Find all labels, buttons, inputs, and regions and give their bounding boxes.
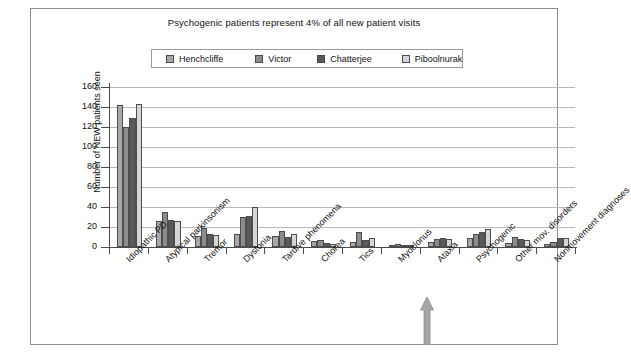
y-tick-label-160: 160	[55, 81, 97, 91]
legend-swatch-victor	[255, 55, 263, 63]
y-tick-20	[101, 227, 109, 228]
legend-item-piboolnurak[interactable]: Piboolnurak	[402, 54, 463, 64]
legend-item-chatterjee[interactable]: Chatterjee	[317, 54, 372, 64]
legend-item-henchcliffe[interactable]: Henchcliffe	[166, 54, 223, 64]
x-tick	[575, 248, 576, 254]
y-tick-label-20: 20	[55, 221, 97, 231]
y-tick-140	[101, 107, 109, 108]
bar-cluster	[428, 87, 453, 247]
arrow-psychogenic-icon	[420, 297, 434, 345]
y-tick-label-60: 60	[55, 181, 97, 191]
y-tick-100	[101, 147, 109, 148]
bar-cluster	[350, 87, 375, 247]
y-tick-160	[101, 87, 109, 88]
y-tick-0	[101, 247, 109, 248]
bar-cluster	[272, 87, 297, 247]
x-tick	[536, 248, 537, 254]
legend-label-piboolnurak: Piboolnurak	[415, 54, 463, 64]
bar[interactable]	[136, 104, 142, 247]
y-tick-60	[101, 187, 109, 188]
y-tick-label-40: 40	[55, 201, 97, 211]
chart-frame: Psychogenic patients represent 4% of all…	[30, 8, 558, 345]
y-tick-40	[101, 207, 109, 208]
y-tick-label-100: 100	[55, 141, 97, 151]
x-tick	[264, 248, 265, 254]
plot-area	[109, 87, 575, 247]
y-tick-80	[101, 167, 109, 168]
x-tick	[148, 248, 149, 254]
chart-title: Psychogenic patients represent 4% of all…	[31, 17, 557, 28]
y-tick-label-0: 0	[55, 241, 97, 251]
y-tick-label-120: 120	[55, 121, 97, 131]
x-tick	[109, 248, 110, 254]
x-tick	[187, 248, 188, 254]
x-tick	[226, 248, 227, 254]
chart-legend: Henchcliffe Victor Chatterjee Piboolnura…	[151, 49, 463, 68]
y-tick-label-140: 140	[55, 101, 97, 111]
x-tick	[381, 248, 382, 254]
legend-swatch-piboolnurak	[402, 55, 410, 63]
legend-item-victor[interactable]: Victor	[255, 54, 291, 64]
bar-cluster	[389, 87, 414, 247]
x-tick	[497, 248, 498, 254]
legend-label-chatterjee: Chatterjee	[330, 54, 372, 64]
x-tick	[342, 248, 343, 254]
legend-label-henchcliffe: Henchcliffe	[179, 54, 223, 64]
x-axis-label: Tics	[357, 246, 376, 265]
x-tick	[303, 248, 304, 254]
y-tick-120	[101, 127, 109, 128]
bar-cluster	[467, 87, 492, 247]
x-tick	[420, 248, 421, 254]
legend-label-victor: Victor	[268, 54, 291, 64]
legend-swatch-chatterjee	[317, 55, 325, 63]
bar[interactable]	[369, 238, 375, 247]
x-tick	[459, 248, 460, 254]
bar-cluster	[234, 87, 259, 247]
y-tick-label-80: 80	[55, 161, 97, 171]
bar-cluster	[117, 87, 142, 247]
legend-swatch-henchcliffe	[166, 55, 174, 63]
